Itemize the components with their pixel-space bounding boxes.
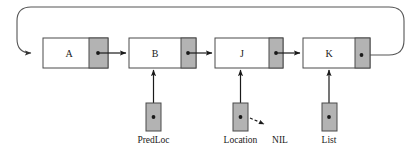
- var-list-dot: [327, 115, 331, 119]
- var-list-label: List: [322, 135, 337, 145]
- diagram-canvas: A B J K: [0, 0, 415, 154]
- node-b-label: B: [152, 48, 159, 59]
- var-location-label: Location: [224, 135, 258, 145]
- node-b[interactable]: B: [129, 38, 212, 68]
- var-predloc[interactable]: PredLoc: [137, 70, 169, 145]
- node-k[interactable]: K: [303, 38, 370, 68]
- node-a[interactable]: A: [43, 38, 126, 68]
- node-a-label: A: [65, 48, 73, 59]
- var-predloc-label: PredLoc: [137, 135, 169, 145]
- var-predloc-dot: [152, 115, 156, 119]
- node-j-label: J: [240, 48, 244, 59]
- nil-annotation-label: NIL: [272, 135, 288, 145]
- link-location-to-nil: [250, 118, 264, 124]
- var-list[interactable]: List: [322, 70, 337, 145]
- node-j[interactable]: J: [215, 38, 300, 68]
- node-k-pointer-dot: [360, 53, 364, 57]
- var-location-dot: [239, 115, 243, 119]
- linked-list-diagram: A B J K: [0, 0, 415, 154]
- node-k-pointer-cell: [355, 38, 370, 68]
- node-k-label: K: [325, 48, 333, 59]
- var-location[interactable]: Location: [224, 70, 264, 145]
